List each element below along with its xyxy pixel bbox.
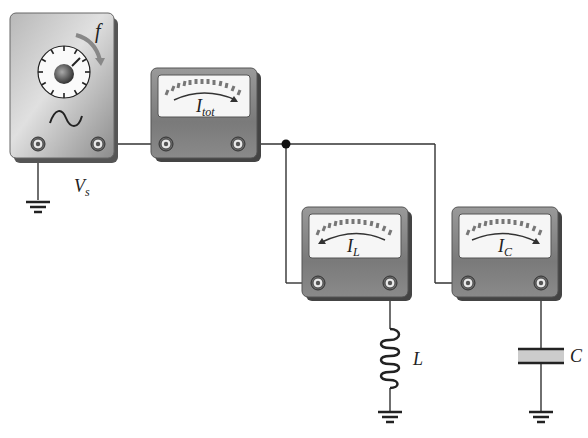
circuit-diagram: f Vs Itot: [0, 0, 588, 438]
dial-knob: [54, 64, 74, 84]
capacitor-label: C: [570, 346, 583, 366]
inductor-label: L: [412, 349, 423, 369]
ammeter-inductor: IL: [302, 207, 412, 301]
ammeter-capacitor: IC: [452, 207, 562, 301]
ac-source: f: [10, 13, 118, 163]
capacitor: C: [518, 346, 583, 366]
source-terminal-ground: [31, 137, 45, 151]
inductor-coil-icon: [381, 329, 399, 388]
source-label: Vs: [74, 176, 90, 199]
ground-icon: [378, 412, 402, 422]
ground-icon: [529, 412, 553, 422]
junction-node: [282, 140, 291, 149]
inductor: L: [381, 329, 423, 388]
ammeter-total: Itot: [151, 68, 261, 162]
source-terminal-output: [91, 137, 105, 151]
ground-icon: [26, 202, 50, 212]
frequency-dial: [38, 46, 90, 98]
